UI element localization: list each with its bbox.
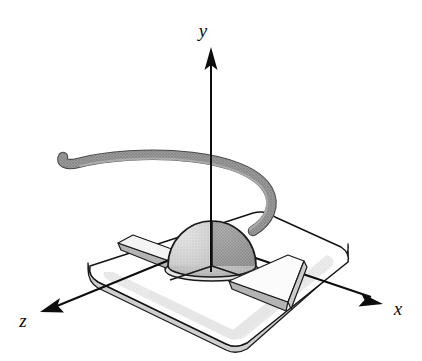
axis-label-y: y xyxy=(197,20,208,41)
axis-label-z: z xyxy=(18,310,27,331)
axis-label-x: x xyxy=(393,298,403,319)
diagram-svg: y x z xyxy=(0,0,422,361)
axis-x-arrowhead xyxy=(359,293,384,307)
figure-root: y x z xyxy=(0,0,422,361)
